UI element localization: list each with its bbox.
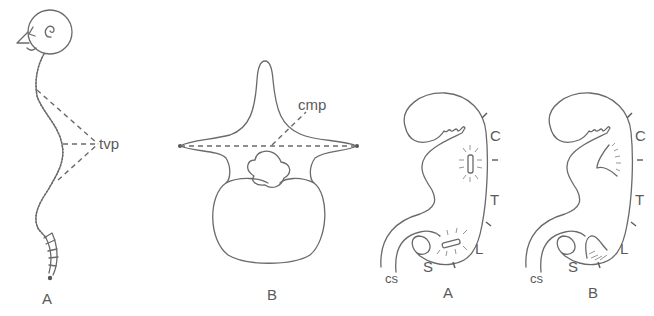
embryo-a-panel: C T L S cs A bbox=[381, 93, 501, 301]
cmp-label: cmp bbox=[298, 96, 326, 113]
embryo-a-label-s: S bbox=[423, 258, 433, 275]
embryo-a-outline bbox=[381, 93, 488, 267]
embryo-a-caption: A bbox=[443, 284, 453, 301]
embryo-b-lower-flap bbox=[586, 236, 607, 258]
spine-curve bbox=[36, 54, 63, 238]
eye-icon bbox=[29, 27, 35, 36]
ear-icon bbox=[45, 26, 54, 37]
embryo-b-label-s: S bbox=[568, 258, 578, 275]
spine-curve-beads bbox=[36, 54, 63, 238]
coccyx-tip bbox=[48, 276, 52, 280]
vertebra-panel: cmp B bbox=[178, 61, 359, 303]
spine-profile-panel: tvp A bbox=[17, 10, 119, 307]
embryo-b-panel: C T L S cs B bbox=[526, 93, 646, 301]
embryo-b-label-c: C bbox=[635, 127, 646, 144]
tvp-line-upper bbox=[37, 90, 98, 144]
cmp-line-pointer bbox=[272, 112, 306, 145]
embryo-b-caption: B bbox=[588, 284, 598, 301]
nose-icon bbox=[17, 32, 29, 43]
sacrum bbox=[44, 233, 57, 275]
embryo-a-label-l: L bbox=[475, 240, 483, 257]
embryo-b-label-l: L bbox=[620, 240, 628, 257]
embryo-b-outline bbox=[526, 93, 633, 267]
embryo-b-label-cs: cs bbox=[530, 271, 544, 286]
tvp-line-lower bbox=[58, 144, 98, 180]
vertebra-outline bbox=[180, 61, 357, 263]
mouth-icon bbox=[27, 48, 36, 50]
embryo-a-label-c: C bbox=[490, 127, 501, 144]
embryo-b-label-t: T bbox=[635, 191, 644, 208]
embryo-a-label-t: T bbox=[490, 191, 499, 208]
tvp-label: tvp bbox=[99, 135, 119, 152]
spinal-canal bbox=[248, 151, 290, 187]
panel-caption-b: B bbox=[267, 286, 277, 303]
embryo-b-upper-flap bbox=[597, 145, 617, 176]
panel-caption-a: A bbox=[42, 290, 52, 307]
figure-canvas: tvp A cmp B bbox=[0, 0, 654, 316]
embryo-a-label-cs: cs bbox=[385, 271, 399, 286]
